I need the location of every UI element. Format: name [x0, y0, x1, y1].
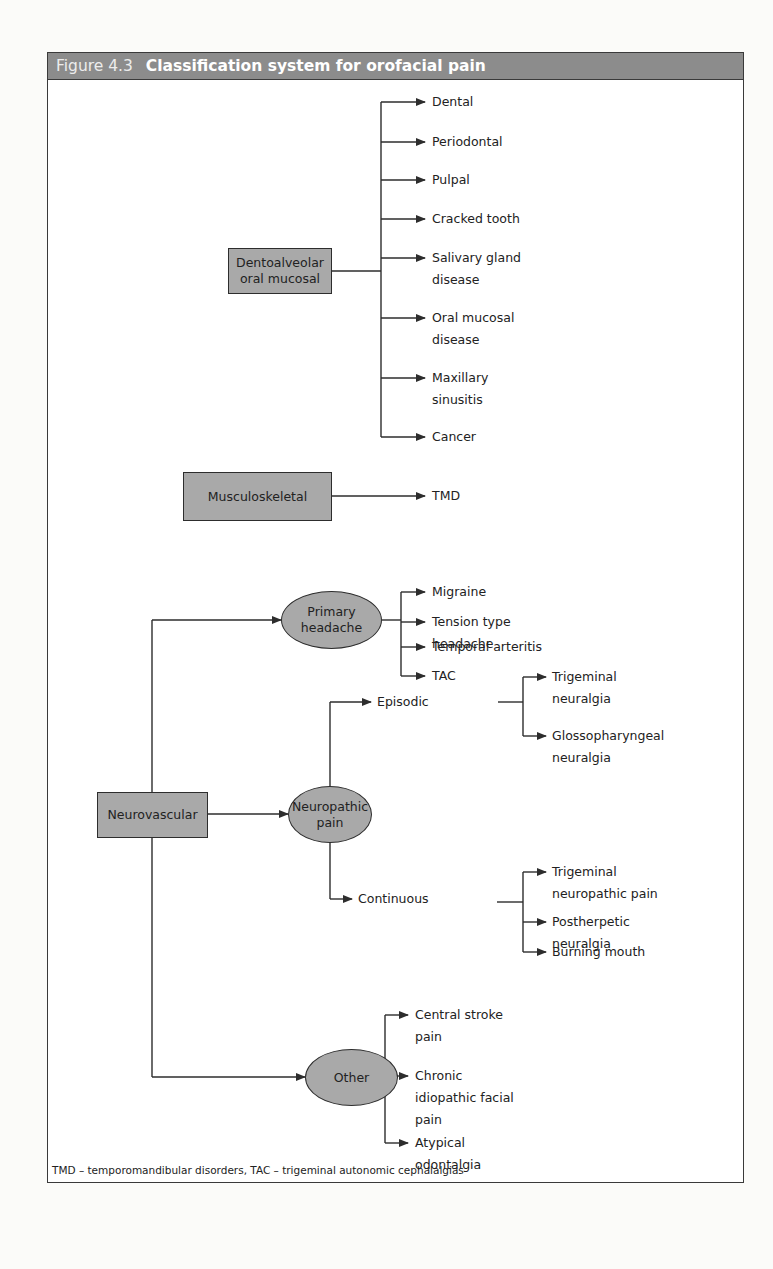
leaf-chronic-idiopathic-facial-pain: Chronic idiopathic facial pain: [415, 1065, 514, 1131]
leaf-periodontal: Periodontal: [432, 131, 503, 153]
leaf-dental: Dental: [432, 91, 473, 113]
node-label: Neurovascular: [107, 807, 197, 823]
leaf-tmd: TMD: [432, 485, 460, 507]
leaf-oral-mucosal-disease: Oral mucosal disease: [432, 307, 514, 351]
leaf-trigeminal-neuropathic-pain: Trigeminal neuropathic pain: [552, 861, 658, 905]
label-episodic: Episodic: [377, 691, 429, 713]
node-neuropathic-pain: Neuropathic pain: [288, 786, 372, 843]
node-neurovascular: Neurovascular: [97, 792, 208, 838]
leaf-salivary-gland-disease: Salivary gland disease: [432, 247, 521, 291]
leaf-migraine: Migraine: [432, 581, 486, 603]
node-dentoalveolar-oral-mucosal: Dentoalveolar oral mucosal: [228, 248, 332, 294]
leaf-temporal-arteritis: Temporal arteritis: [432, 636, 542, 658]
leaf-burning-mouth: Burning mouth: [552, 941, 645, 963]
leaf-cancer: Cancer: [432, 426, 476, 448]
leaf-maxillary-sinusitis: Maxillary sinusitis: [432, 367, 488, 411]
node-label: pain: [317, 815, 344, 831]
leaf-tac: TAC: [432, 665, 456, 687]
leaf-cracked-tooth: Cracked tooth: [432, 208, 520, 230]
leaf-trigeminal-neuralgia: Trigeminal neuralgia: [552, 666, 617, 710]
label-continuous: Continuous: [358, 888, 429, 910]
node-label: headache: [301, 620, 362, 636]
node-label: Musculoskeletal: [208, 489, 307, 505]
node-other: Other: [305, 1049, 398, 1106]
node-label: oral mucosal: [240, 271, 320, 287]
figure-footnote: TMD – temporomandibular disorders, TAC –…: [52, 1164, 464, 1176]
node-primary-headache: Primary headache: [281, 591, 382, 649]
node-musculoskeletal: Musculoskeletal: [183, 472, 332, 521]
node-label: Other: [334, 1070, 370, 1086]
node-label: Neuropathic: [292, 799, 368, 815]
leaf-central-stroke-pain: Central stroke pain: [415, 1004, 503, 1048]
node-label: Primary: [307, 604, 355, 620]
node-label: Dentoalveolar: [236, 255, 324, 271]
leaf-pulpal: Pulpal: [432, 169, 470, 191]
leaf-glossopharyngeal-neuralgia: Glossopharyngeal neuralgia: [552, 725, 664, 769]
